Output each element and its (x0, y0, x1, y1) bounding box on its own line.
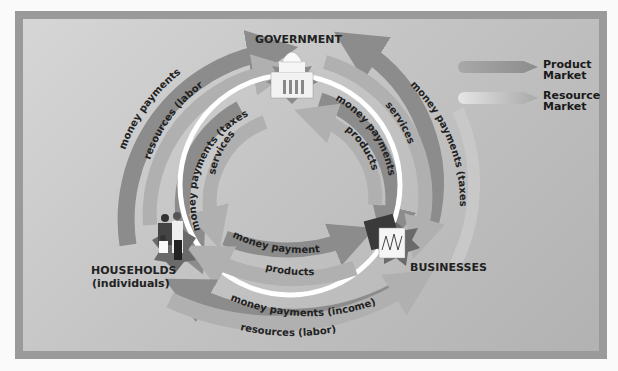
capitol-building-icon (266, 52, 318, 104)
government-label: GOVERNMENT (255, 34, 342, 46)
legend-resource-label: ResourceMarket (543, 90, 600, 112)
households-sublabel: (individuals) (92, 278, 170, 290)
legend-resource-swatch (458, 92, 538, 104)
circular-flow-diagram: money payments resources (labor) money p… (0, 0, 618, 371)
businesses-label: BUSINESSES (410, 262, 487, 274)
households-label: HOUSEHOLDS (91, 265, 177, 277)
legend-product-label: ProductMarket (543, 59, 592, 81)
legend-product-swatch (458, 61, 538, 73)
